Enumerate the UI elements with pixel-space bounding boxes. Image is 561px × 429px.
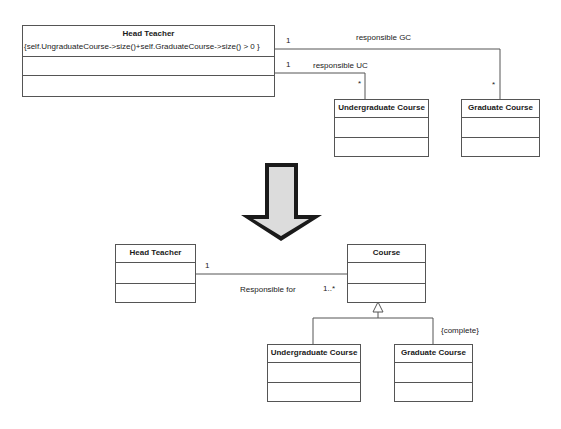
attributes-section — [395, 363, 472, 383]
operations-section — [23, 76, 274, 96]
generalization-constraint: {complete} — [441, 327, 479, 335]
attributes-section — [116, 263, 195, 284]
uc-source-multiplicity: 1 — [286, 61, 290, 69]
gc-target-multiplicity: * — [492, 81, 495, 89]
operations-section — [462, 138, 539, 156]
class-course[interactable]: Course — [347, 244, 426, 303]
class-name: Graduate Course — [462, 100, 539, 118]
generalization-triangle-icon — [373, 302, 383, 312]
class-name: Graduate Course — [395, 345, 472, 363]
operations-section — [268, 383, 360, 401]
assoc-gc-line — [274, 49, 500, 99]
gc-role-label: responsible GC — [356, 34, 411, 42]
assoc-uc-line — [274, 73, 365, 99]
class-graduate-course-after[interactable]: Graduate Course — [394, 344, 473, 402]
class-head-teacher-before[interactable]: Head Teacher {self.UngraduateCourse->siz… — [22, 25, 275, 97]
operations-section — [348, 284, 425, 302]
class-head-teacher-after[interactable]: Head Teacher — [115, 244, 196, 303]
attributes-section — [335, 118, 428, 138]
class-undergraduate-course-before[interactable]: Undergraduate Course — [334, 99, 429, 157]
operations-section — [116, 284, 195, 302]
attributes-section — [268, 363, 360, 383]
gc-source-multiplicity: 1 — [286, 37, 290, 45]
assoc-target-multiplicity: 1..* — [323, 285, 335, 293]
operations-section — [395, 383, 472, 401]
attributes-section — [462, 118, 539, 138]
down-arrow-icon — [241, 163, 322, 241]
attributes-section — [348, 263, 425, 284]
class-name: Undergraduate Course — [268, 345, 360, 363]
uc-target-multiplicity: * — [358, 80, 361, 88]
class-name: Head Teacher — [116, 245, 195, 263]
assoc-label: Responsible for — [240, 286, 296, 294]
uc-role-label: responsible UC — [313, 62, 368, 70]
class-name: Undergraduate Course — [335, 100, 428, 118]
class-undergraduate-course-after[interactable]: Undergraduate Course — [267, 344, 361, 402]
class-name: Course — [348, 245, 425, 263]
class-graduate-course-before[interactable]: Graduate Course — [461, 99, 540, 157]
ocl-constraint: {self.UngraduateCourse->size()+self.Grad… — [23, 43, 274, 51]
operations-section — [335, 138, 428, 156]
assoc-source-multiplicity: 1 — [205, 262, 209, 270]
generalization — [313, 302, 433, 344]
class-name: Head Teacher — [123, 29, 175, 38]
attributes-section — [23, 57, 274, 76]
